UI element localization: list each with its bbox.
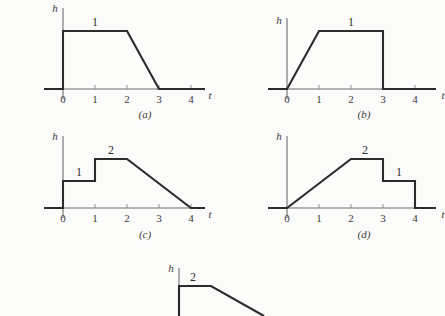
panel-d-ticklabel-2: 2 bbox=[348, 212, 354, 224]
panel-a-curve bbox=[44, 31, 205, 89]
panel-c: 0 1 2 3 4 h t 1 2 bbox=[0, 130, 215, 225]
panel-a-ticklabel-1: 1 bbox=[92, 93, 98, 105]
panel-c-curve bbox=[44, 159, 205, 208]
panel-c-y-axis-label: h bbox=[52, 130, 58, 142]
panel-e-curve bbox=[179, 286, 264, 316]
panel-e: h 2 bbox=[140, 262, 340, 316]
panel-c-ticklabel-2: 2 bbox=[124, 212, 130, 224]
panel-b-ticklabel-2: 2 bbox=[348, 93, 354, 105]
panel-e-value-label-2: 2 bbox=[190, 270, 196, 284]
panel-d-curve bbox=[268, 159, 436, 208]
panel-d-ticklabel-3: 3 bbox=[380, 212, 386, 224]
panel-c-ticklabel-3: 3 bbox=[156, 212, 162, 224]
panel-b-x-axis-label: t bbox=[441, 89, 445, 101]
panel-d-ticklabel-4: 4 bbox=[412, 212, 418, 224]
panel-d-caption: (d) bbox=[344, 228, 384, 240]
panel-d-y-axis-label: h bbox=[276, 130, 282, 142]
panel-c-ticklabel-1: 1 bbox=[92, 212, 98, 224]
panel-a-value-label-1: 1 bbox=[92, 15, 98, 29]
panel-d: 0 1 2 3 4 h t 2 1 bbox=[224, 130, 445, 225]
panel-d-x-axis-label: t bbox=[441, 208, 445, 220]
panel-c-ticklabel-4: 4 bbox=[188, 212, 194, 224]
panel-d-value-label-2: 2 bbox=[362, 143, 368, 157]
panel-a-ticklabel-3: 3 bbox=[156, 93, 162, 105]
panel-d-value-label-1: 1 bbox=[396, 165, 402, 179]
panel-c-x-axis-label: t bbox=[208, 208, 212, 220]
panel-d-ticklabel-1: 1 bbox=[316, 212, 322, 224]
panel-b-ticklabel-4: 4 bbox=[412, 93, 418, 105]
panel-a-x-axis-label: t bbox=[208, 89, 212, 101]
panel-b-value-label-1: 1 bbox=[348, 15, 354, 29]
panel-a: 0 1 2 3 4 h t 1 bbox=[0, 0, 215, 105]
panel-a-y-axis-label: h bbox=[52, 2, 58, 14]
panel-b-curve bbox=[268, 31, 436, 89]
panel-c-value-label-2: 2 bbox=[108, 143, 114, 157]
panel-b-ticklabel-0: 0 bbox=[284, 93, 290, 105]
panel-b-caption: (b) bbox=[344, 108, 384, 120]
panel-c-ticklabel-0: 0 bbox=[60, 212, 66, 224]
panel-b-ticklabel-1: 1 bbox=[316, 93, 322, 105]
panel-a-ticklabel-4: 4 bbox=[188, 93, 194, 105]
panel-e-y-axis-label: h bbox=[168, 262, 174, 274]
figure-page: 0 1 2 3 4 h t 1 (a) 0 1 2 3 4 bbox=[0, 0, 445, 316]
panel-b-y-axis-label: h bbox=[276, 14, 282, 26]
panel-a-ticklabel-0: 0 bbox=[60, 93, 66, 105]
panel-b-ticklabel-3: 3 bbox=[380, 93, 386, 105]
panel-b: 0 1 2 3 4 h t 1 bbox=[224, 0, 445, 105]
panel-a-ticklabel-2: 2 bbox=[124, 93, 130, 105]
panel-c-caption: (c) bbox=[125, 228, 165, 240]
panel-c-value-label-1: 1 bbox=[76, 165, 82, 179]
panel-d-ticklabel-0: 0 bbox=[284, 212, 290, 224]
panel-a-caption: (a) bbox=[125, 108, 165, 120]
